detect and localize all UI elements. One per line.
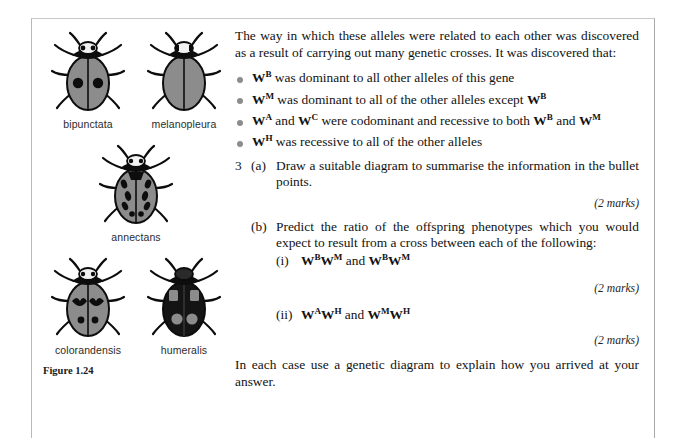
marks-ii: (2 marks) — [235, 333, 639, 350]
sub-question-i: (i) WBWM and WBWM — [276, 253, 639, 270]
ladybird-icon — [146, 257, 222, 343]
sub-question-ii: (ii) WAWH and WMWH — [276, 307, 639, 324]
bullet-item-3: WA and WC were codominant and recessive … — [235, 113, 639, 129]
sub-ii-cross: WAWH and WMWH — [301, 307, 410, 324]
allele-symbol: WB — [252, 70, 271, 85]
part-label-b: (b) — [251, 219, 276, 270]
allele-symbol: WMWH — [368, 307, 410, 322]
closing-paragraph: In each case use a genetic diagram to ex… — [235, 357, 639, 390]
bullet-dot-icon — [237, 141, 243, 147]
allele-symbol: WM — [252, 92, 274, 107]
specimen-melanopleura: melanopleura — [136, 31, 232, 130]
question-number: 3 — [235, 158, 251, 191]
bullet-text: was dominant to all of the other alleles… — [277, 92, 523, 107]
part-a-text: Draw a suitable diagram to summarise the… — [276, 158, 639, 191]
ladybird-icon — [146, 31, 222, 117]
figure-caption: Figure 1.24 — [43, 365, 94, 376]
question-3b: (b) Predict the ratio of the offspring p… — [235, 219, 639, 270]
specimen-bipunctata: bipunctata — [40, 31, 136, 130]
marks-a: (2 marks) — [235, 196, 639, 213]
allele-symbol: WM — [579, 113, 601, 128]
intro-paragraph: The way in which these alleles were rela… — [235, 28, 639, 61]
specimen-row-2: annectans — [40, 144, 232, 243]
specimen-humeralis: humeralis — [136, 257, 232, 356]
specimen-label: colorandensis — [55, 344, 121, 356]
specimen-colorandensis: colorandensis — [40, 257, 136, 356]
question-3a: 3 (a) Draw a suitable diagram to summari… — [235, 158, 639, 191]
allele-symbol: WH — [252, 134, 272, 149]
allele-bullet-list: WB was dominant to all other alleles of … — [235, 70, 639, 151]
ladybird-icon — [98, 144, 174, 230]
allele-symbol: WC — [298, 113, 318, 128]
part-label-a: (a) — [251, 158, 276, 191]
bullet-item-2: WM was dominant to all of the other alle… — [235, 92, 639, 108]
bullet-dot-icon — [237, 98, 243, 104]
specimen-label: humeralis — [161, 344, 207, 356]
allele-symbol: WB — [527, 92, 546, 107]
ladybird-icon — [50, 31, 126, 117]
cross-joiner: and — [346, 253, 365, 268]
bullet-dot-icon — [237, 120, 243, 126]
sub-label-ii: (ii) — [276, 307, 301, 324]
specimen-annectans: annectans — [88, 144, 184, 243]
bullet-text: was recessive to all of the other allele… — [276, 134, 482, 149]
specimen-label: melanopleura — [152, 118, 217, 130]
marks-i: (2 marks) — [235, 281, 639, 298]
textbook-page: bipunctata melanopleura — [31, 18, 655, 438]
allele-symbol: WBWM — [369, 253, 410, 268]
allele-symbol: WB — [533, 113, 552, 128]
bullet-text: was dominant to all other alleles of thi… — [275, 70, 514, 85]
bullet-item-4: WH was recessive to all of the other all… — [235, 134, 639, 150]
text-column: The way in which these alleles were rela… — [235, 28, 639, 390]
figure-column: bipunctata melanopleura — [40, 23, 232, 423]
allele-symbol: WBWM — [301, 253, 342, 268]
specimen-label: bipunctata — [63, 118, 112, 130]
allele-symbol: WA — [252, 113, 272, 128]
part-b-text: Predict the ratio of the offspring pheno… — [276, 219, 639, 252]
allele-symbol: WAWH — [301, 307, 341, 322]
bullet-conjunction: and — [275, 113, 294, 128]
bullet-conjunction: and — [556, 113, 575, 128]
sub-i-cross: WBWM and WBWM — [301, 253, 410, 270]
specimen-row-3: colorandensis — [40, 257, 232, 356]
sub-question-ii-row: (ii) WAWH and WMWH — [235, 307, 639, 324]
cross-joiner: and — [345, 307, 364, 322]
sub-label-i: (i) — [276, 253, 301, 270]
specimen-row-1: bipunctata melanopleura — [40, 31, 232, 130]
question-number-spacer — [235, 219, 251, 270]
bullet-item-1: WB was dominant to all other alleles of … — [235, 70, 639, 86]
specimen-label: annectans — [111, 231, 160, 243]
bullet-dot-icon — [237, 77, 243, 83]
ladybird-icon — [50, 257, 126, 343]
bullet-text: were codominant and recessive to both — [321, 113, 530, 128]
